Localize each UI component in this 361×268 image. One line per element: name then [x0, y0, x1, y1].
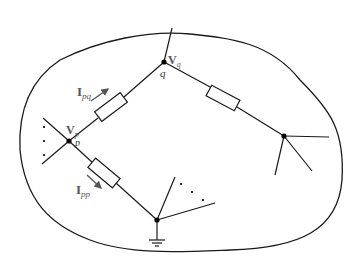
impedance-pp: [88, 158, 120, 188]
node-label-p: p: [74, 137, 80, 148]
ellipsis-dots-p: [43, 126, 45, 156]
branch-r-1: [284, 136, 329, 137]
voltage-label-q: Vq: [168, 53, 181, 69]
node-p: [66, 138, 71, 143]
current-arrow-pq: [91, 89, 108, 101]
branch-g-1: [157, 177, 175, 220]
impedance-qr: [206, 85, 240, 111]
node-ground: [154, 217, 159, 222]
branch-g-2: [157, 203, 215, 220]
network-diagram: Ipq Ipp Vp p Vq q: [0, 0, 361, 268]
line-p-impedance2: [69, 141, 93, 163]
current-label-pp: Ipp: [76, 182, 91, 199]
node-r: [281, 133, 286, 138]
current-label-pq: Ipq: [77, 84, 92, 101]
branch-p-2: [42, 141, 69, 164]
line-impedance-ground: [116, 183, 157, 220]
impedance-pq: [95, 93, 128, 122]
ellipsis-dots-ground: [180, 183, 204, 201]
line-impedance-q: [124, 62, 164, 97]
branch-r-3: [284, 136, 312, 171]
branch-r-2: [275, 136, 284, 175]
line-impedance-r: [237, 107, 284, 136]
node-q: [161, 59, 166, 64]
node-label-q: q: [160, 67, 166, 79]
